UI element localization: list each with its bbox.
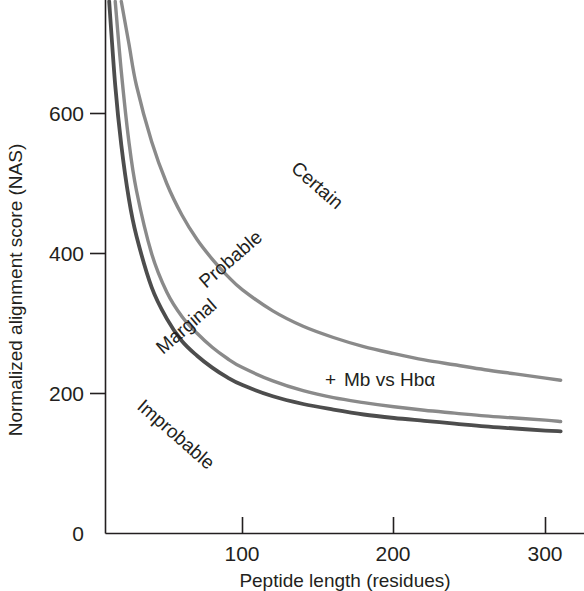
x-tick-label-100: 100 [224,542,259,565]
plus-marker-icon: + [325,369,336,390]
nas-vs-peptide-length-chart: 600 400 200 0 100 200 300 Peptide length… [0,0,584,591]
x-tick-label-200: 200 [375,542,410,565]
chart-figure: 600 400 200 0 100 200 300 Peptide length… [0,0,584,591]
y-tick-label-200: 200 [49,382,84,405]
mb-vs-hba-label: Mb vs Hbα [344,369,435,390]
x-axis-title: Peptide length (residues) [239,570,450,591]
y-tick-label-400: 400 [49,242,84,265]
y-tick-label-600: 600 [49,102,84,125]
y-tick-label-0: 0 [72,522,84,545]
chart-background [0,0,584,591]
x-tick-label-300: 300 [527,542,562,565]
y-axis-title: Normalized alignment score (NAS) [5,144,26,437]
